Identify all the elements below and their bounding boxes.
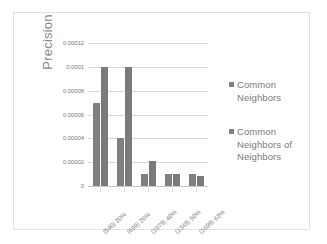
legend-item[interactable]: Common Neighbors of Neighbors [229,126,314,164]
bar-groups [88,43,208,186]
bar[interactable] [93,103,100,186]
legend-item[interactable]: Common Neighbors [229,79,314,104]
bar-group [160,43,184,186]
bar[interactable] [101,67,108,186]
x-axis-labels: (540) 20%(699) 26%(1079) 40%(1349) 50%(1… [88,189,208,235]
y-axis-tick-label: 0.00006 [63,112,84,118]
y-axis-tick-label: 0.00008 [63,88,84,94]
x-axis-tickmark [100,189,101,192]
y-axis-title: Precision [40,0,54,97]
bar-group [136,43,160,186]
x-axis-tick-label: (1079) 40% [149,230,154,235]
bar[interactable] [141,174,148,186]
plot-area: 00.000020.000040.000060.000080.00010.000… [88,43,208,186]
gridline [88,186,208,187]
x-axis-tick-label: (1349) 50% [173,230,178,235]
bar-group [112,43,136,186]
legend-item-label: Common Neighbors [237,79,314,104]
square-marker-icon [229,82,234,87]
x-axis-tick-label: (540) 20% [101,230,106,235]
square-marker-icon [229,129,234,134]
bar[interactable] [165,174,172,186]
bar[interactable] [189,174,196,186]
x-axis-tickmark [148,189,149,192]
chart-legend: Common Neighbors Common Neighbors of Nei… [229,79,314,186]
x-axis-tickmark [172,189,173,192]
bar[interactable] [149,161,156,186]
y-axis-tick-label: 0.0001 [66,64,84,70]
x-axis-tick-label: (699) 26% [125,230,130,235]
bar[interactable] [173,174,180,186]
chart-container: Precision 00.000020.000040.000060.000080… [13,12,310,230]
x-axis-tickmark [196,189,197,192]
bar[interactable] [197,176,204,186]
bar-group [184,43,208,186]
bar[interactable] [117,138,124,186]
x-axis-tickmark [124,189,125,192]
legend-item-label: Common Neighbors of Neighbors [237,126,314,164]
y-axis-tick-label: 0.00012 [63,40,84,46]
bar-group [88,43,112,186]
y-axis-tick-label: 0 [81,183,84,189]
x-axis-tick-label: (1699) 63% [197,230,202,235]
y-axis-tick-label: 0.00004 [63,135,84,141]
bar[interactable] [125,67,132,186]
y-axis-tick-label: 0.00002 [63,159,84,165]
